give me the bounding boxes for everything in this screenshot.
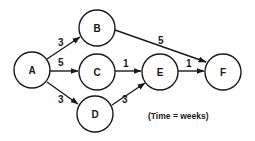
edge-label-a-c: 5 [58, 57, 64, 68]
node-a: A [14, 52, 50, 88]
node-d: D [77, 96, 113, 132]
edge-label-d-e: 3 [122, 94, 128, 105]
node-b: B [79, 10, 115, 46]
edge-label-e-f: 1 [186, 58, 192, 69]
node-label-e: E [157, 67, 164, 78]
time-unit-note: (Time = weeks) [148, 111, 209, 121]
edge-label-b-f: 5 [158, 35, 164, 46]
node-e: E [142, 54, 178, 90]
node-label-a: A [28, 65, 35, 76]
node-label-b: B [93, 23, 100, 34]
node-label-d: D [91, 109, 98, 120]
network-diagram: 3 5 3 5 1 3 1 A B C D E F [0, 0, 255, 141]
edge-d-e [112, 83, 145, 105]
edge-label-a-b: 3 [58, 37, 64, 48]
edge-label-c-e: 1 [123, 58, 129, 69]
edge-label-a-d: 3 [58, 94, 64, 105]
node-label-c: C [93, 67, 100, 78]
node-c: C [79, 54, 115, 90]
node-f: F [205, 54, 241, 90]
node-label-f: F [220, 67, 226, 78]
